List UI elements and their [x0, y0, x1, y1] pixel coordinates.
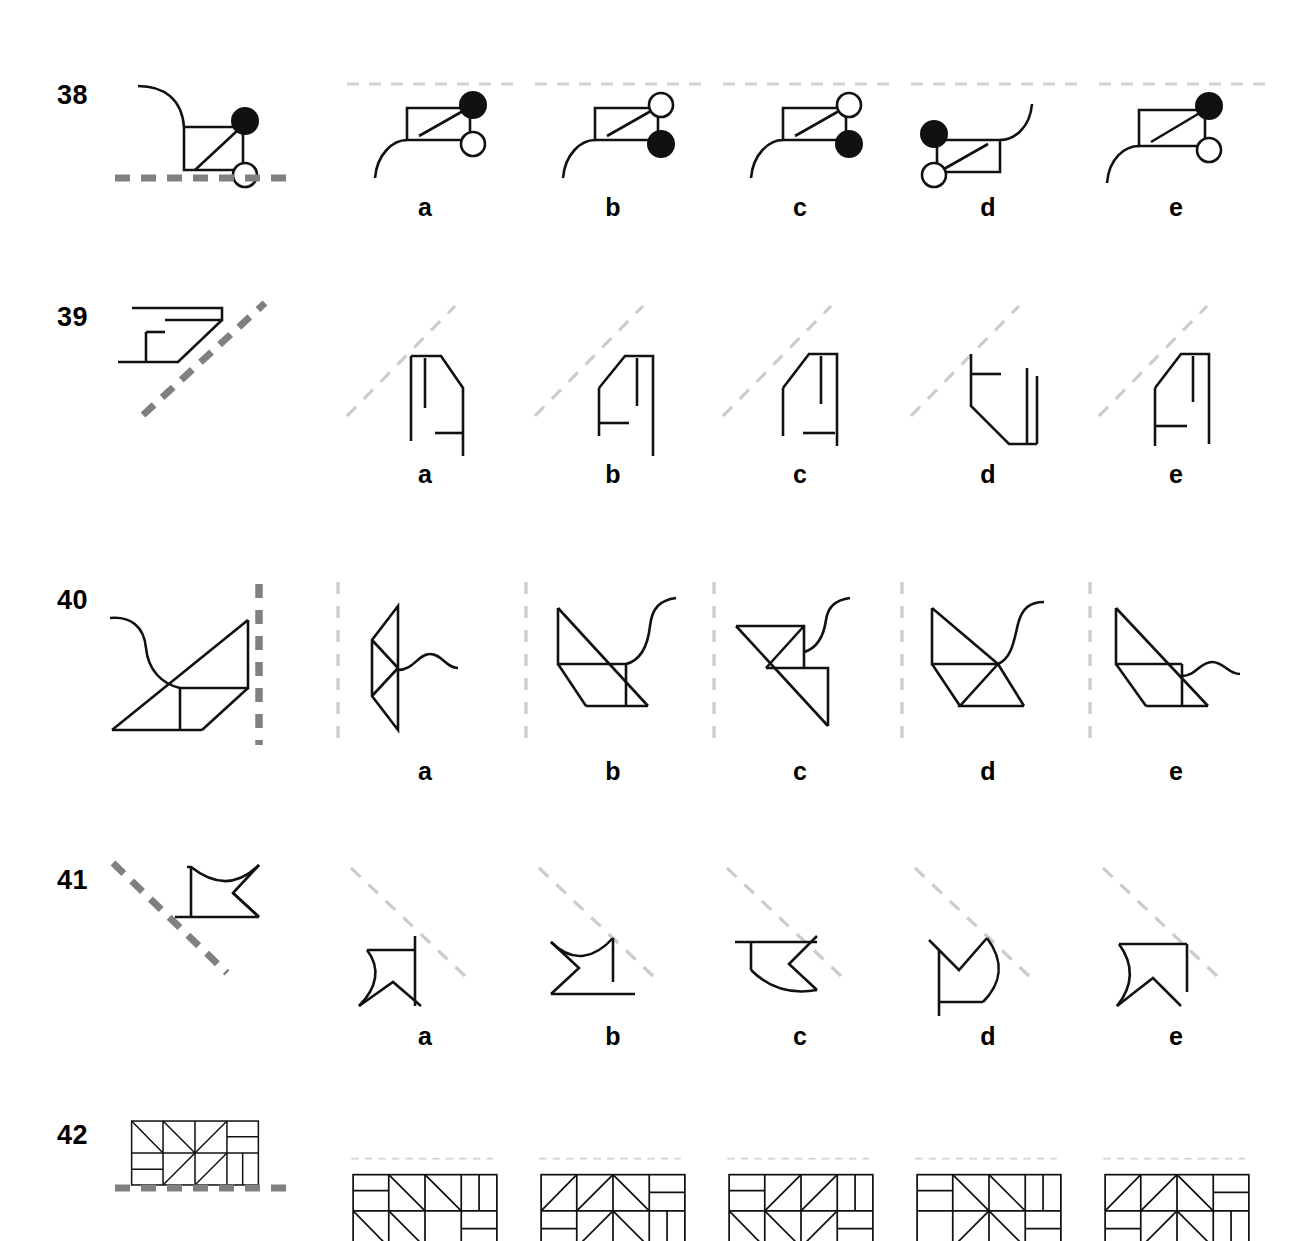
option-label-39-e: e [1156, 460, 1196, 489]
option-label-40-d: d [968, 757, 1008, 786]
option-panel-41-a[interactable] [345, 858, 525, 1028]
option-panel-42-e[interactable] [1097, 1155, 1257, 1241]
option-panel-39-a[interactable] [345, 296, 515, 456]
mirror-line-42 [110, 1178, 300, 1198]
option-label-39-a: a [405, 460, 445, 489]
option-label-41-c: c [780, 1022, 820, 1051]
option-panel-38-c[interactable] [721, 78, 891, 198]
option-panel-40-a[interactable] [330, 578, 510, 753]
option-label-39-c: c [780, 460, 820, 489]
option-label-38-e: e [1156, 193, 1196, 222]
item-number-41: 41 [57, 865, 88, 896]
item-number-42: 42 [57, 1120, 88, 1151]
option-label-40-b: b [593, 757, 633, 786]
option-label-39-d: d [968, 460, 1008, 489]
item-number-38: 38 [57, 80, 88, 111]
option-label-41-d: d [968, 1022, 1008, 1051]
mirror-line-40 [247, 580, 277, 750]
option-panel-38-b[interactable] [533, 78, 703, 198]
option-label-41-e: e [1156, 1022, 1196, 1051]
item-number-40: 40 [57, 585, 88, 616]
option-label-38-a: a [405, 193, 445, 222]
option-panel-42-d[interactable] [909, 1155, 1069, 1241]
option-panel-38-d[interactable] [909, 78, 1079, 198]
option-panel-41-c[interactable] [721, 858, 901, 1028]
option-label-38-d: d [968, 193, 1008, 222]
option-panel-39-e[interactable] [1097, 296, 1267, 456]
option-panel-41-e[interactable] [1097, 858, 1277, 1028]
test-page: 38 [0, 0, 1306, 1241]
option-panel-40-d[interactable] [894, 578, 1074, 753]
option-panel-40-c[interactable] [706, 578, 886, 753]
mirror-line-39 [125, 295, 285, 425]
option-panel-39-b[interactable] [533, 296, 703, 456]
option-panel-40-e[interactable] [1082, 578, 1262, 753]
option-label-40-e: e [1156, 757, 1196, 786]
option-label-41-a: a [405, 1022, 445, 1051]
item-number-39: 39 [57, 302, 88, 333]
option-label-40-a: a [405, 757, 445, 786]
option-panel-42-c[interactable] [721, 1155, 881, 1241]
option-panel-38-a[interactable] [345, 78, 515, 198]
option-panel-39-c[interactable] [721, 296, 891, 456]
option-panel-39-d[interactable] [909, 296, 1079, 456]
option-panel-40-b[interactable] [518, 578, 698, 753]
option-label-38-c: c [780, 193, 820, 222]
option-panel-38-e[interactable] [1097, 78, 1267, 198]
option-label-40-c: c [780, 757, 820, 786]
option-panel-41-d[interactable] [909, 858, 1089, 1028]
option-panel-42-b[interactable] [533, 1155, 693, 1241]
option-label-41-b: b [593, 1022, 633, 1051]
option-panel-42-a[interactable] [345, 1155, 505, 1241]
option-label-38-b: b [593, 193, 633, 222]
stimulus-figure-41 [175, 855, 295, 965]
mirror-line-38 [110, 168, 300, 188]
option-label-39-b: b [593, 460, 633, 489]
option-panel-41-b[interactable] [533, 858, 713, 1028]
